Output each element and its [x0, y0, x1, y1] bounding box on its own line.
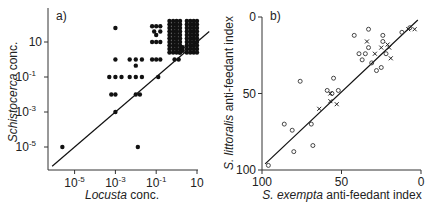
circle-marker [374, 69, 378, 73]
data-point [127, 57, 131, 61]
data-point [150, 24, 154, 28]
panel-label-a: a) [56, 9, 67, 23]
data-point [140, 57, 144, 61]
data-point [134, 63, 138, 67]
data-point [158, 29, 162, 33]
circle-marker [336, 88, 340, 92]
data-point [195, 50, 199, 54]
figure: 10-510-310-1101010-110-310-5a)Locusta co… [0, 0, 430, 211]
y-tick-label: 10 [29, 35, 43, 49]
panel-label-b: b) [270, 9, 281, 23]
circle-marker [384, 52, 388, 56]
y-tick-label: 50 [243, 87, 257, 101]
x-tick-label: 0 [418, 175, 425, 189]
y-axis-label: S. littoralis anti-feedant index [222, 16, 236, 170]
data-point [119, 75, 123, 79]
data-point [156, 75, 160, 79]
circle-marker [309, 122, 313, 126]
data-point [154, 24, 158, 28]
circle-marker [400, 30, 404, 34]
data-point [113, 110, 117, 114]
circle-marker [367, 46, 371, 50]
x-axis-label: S. exempta anti-feedant index [262, 188, 421, 202]
data-point [113, 26, 117, 30]
data-point [113, 92, 117, 96]
data-point [158, 24, 162, 28]
cross-marker [335, 102, 339, 106]
cross-marker [413, 27, 417, 31]
data-point [134, 75, 138, 79]
data-point [154, 40, 158, 44]
regression-line [265, 20, 418, 164]
circle-marker [298, 79, 302, 83]
circle-marker [363, 52, 367, 56]
circle-marker [381, 39, 385, 43]
y-tick-label: 0 [249, 10, 256, 24]
circle-marker [311, 144, 315, 148]
data-point [158, 57, 162, 61]
circle-marker [352, 33, 356, 37]
circle-marker [266, 163, 270, 167]
panel-a: 10-510-310-1101010-110-310-5a)Locusta co… [6, 8, 209, 202]
circle-marker [379, 65, 383, 69]
y-tick-label: 100 [236, 163, 256, 177]
data-point [134, 92, 138, 96]
data-point [60, 145, 64, 149]
panel-b: 100500050100b)S. exempta anti-feedant in… [222, 9, 425, 202]
data-point [150, 40, 154, 44]
data-point [154, 57, 158, 61]
cross-marker [389, 56, 393, 60]
x-tick-label: 50 [335, 175, 349, 189]
circle-marker [360, 58, 364, 62]
data-point [154, 33, 158, 37]
x-axis-label: Locusta conc. [85, 188, 159, 202]
data-point [134, 57, 138, 61]
circle-marker [332, 76, 336, 80]
x-tick-label: 100 [252, 175, 272, 189]
cross-marker [379, 46, 383, 50]
data-point [138, 92, 142, 96]
data-point [140, 75, 144, 79]
cross-marker [365, 39, 369, 43]
circle-marker [367, 27, 371, 31]
cross-marker [317, 107, 321, 111]
data-point [176, 57, 180, 61]
data-point [158, 40, 162, 44]
data-point [136, 145, 140, 149]
data-point [127, 75, 131, 79]
circle-marker [357, 52, 361, 56]
data-point [177, 50, 181, 54]
circle-marker [292, 150, 296, 154]
y-axis-label: Schistocerca conc. [6, 42, 20, 143]
data-point [113, 75, 117, 79]
data-point [172, 57, 176, 61]
x-tick-label: 10 [190, 176, 204, 190]
data-point [150, 57, 154, 61]
data-point [109, 92, 113, 96]
circle-marker [381, 33, 385, 37]
data-point [113, 57, 117, 61]
cross-marker [373, 52, 377, 56]
circle-marker [290, 128, 294, 132]
circle-marker [282, 122, 286, 126]
data-point [107, 75, 111, 79]
x-tick-label: 10-5 [64, 175, 85, 190]
